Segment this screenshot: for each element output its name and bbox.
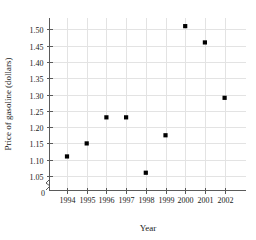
data-point <box>124 115 128 119</box>
y-tick-label: 1.20 <box>30 124 44 133</box>
data-point <box>223 96 227 100</box>
y-axis-zero-label: 0 <box>41 189 45 198</box>
data-point <box>183 24 187 28</box>
x-axis-title: Year <box>140 223 157 233</box>
x-tick-label: 1997 <box>119 196 135 205</box>
data-point <box>144 171 148 175</box>
y-tick-label: 1.45 <box>30 43 44 52</box>
x-tick-label: 1998 <box>139 196 155 205</box>
data-point <box>163 133 167 137</box>
y-tick-label: 1.40 <box>30 59 44 68</box>
gridlines-vertical <box>68 18 226 191</box>
y-axis-title: Price of gasoline (dollars) <box>3 57 13 150</box>
y-tick-label: 1.35 <box>30 75 44 84</box>
chart-canvas: 1.501.451.401.351.301.251.201.151.101.05… <box>0 0 256 240</box>
x-tick-label: 2001 <box>198 196 214 205</box>
y-tick-label: 1.25 <box>30 108 44 117</box>
x-tick-label: 1994 <box>60 196 76 205</box>
scatter-chart: 1.501.451.401.351.301.251.201.151.101.05… <box>0 0 256 240</box>
data-point <box>104 115 108 119</box>
data-point <box>203 40 207 44</box>
x-tick-labels: 199419951996199719981999200020012002 <box>60 196 234 205</box>
x-tick-label: 2002 <box>218 196 234 205</box>
x-tick-label: 1995 <box>80 196 96 205</box>
x-tick-label: 1996 <box>99 196 115 205</box>
x-tick-label: 1999 <box>159 196 175 205</box>
y-tick-label: 1.10 <box>30 157 44 166</box>
y-tick-label: 1.15 <box>30 140 44 149</box>
y-tick-label: 1.50 <box>30 26 44 35</box>
y-tick-label: 1.05 <box>30 173 44 182</box>
y-tick-labels: 1.501.451.401.351.301.251.201.151.101.05 <box>30 26 44 182</box>
gridlines-horizontal <box>50 30 247 177</box>
y-tick-label: 1.30 <box>30 92 44 101</box>
data-point <box>65 154 69 158</box>
data-point <box>85 141 89 145</box>
x-tick-label: 2000 <box>178 196 194 205</box>
